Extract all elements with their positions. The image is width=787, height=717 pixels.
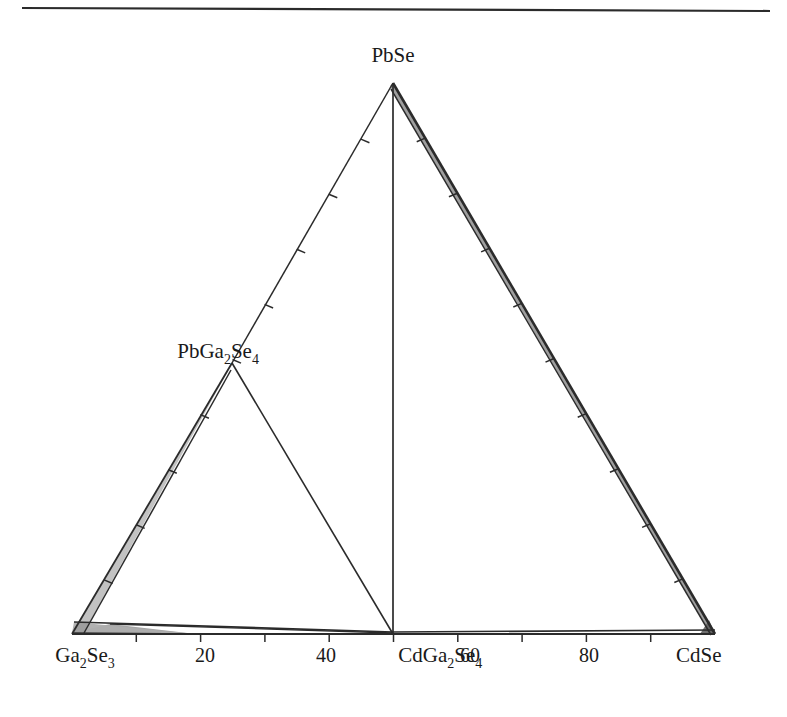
cdga2se4-base: CdGa xyxy=(398,643,448,667)
boundary-bottom-lens-upper xyxy=(74,622,715,632)
ga2se3-sub1: 2 xyxy=(80,656,87,671)
figure-container: PbSe Ga2Se3 CdSe PbGa2Se4 CdGa2Se4 20 40… xyxy=(0,0,787,717)
corner-label-ga2se3: Ga2Se3 xyxy=(8,643,152,673)
svg-text:CdGa2Se4: CdGa2Se4 xyxy=(351,643,519,673)
axis-tick-label-80: 80 xyxy=(579,644,599,666)
cdga2se4-sub1: 2 xyxy=(447,656,454,671)
svg-text:Ga2Se3: Ga2Se3 xyxy=(8,643,152,673)
boundary-bottom-lens-lower-left xyxy=(72,633,196,634)
ga2se3-sub2: 3 xyxy=(108,656,115,671)
axis-tick-label-60: 60 xyxy=(460,644,480,666)
node-label-cdga2se4: CdGa2Se4 xyxy=(351,643,519,673)
edge-pbse-cdse-inner xyxy=(391,89,711,635)
pbga2se4-base: PbGa xyxy=(177,339,224,363)
ternary-phase-diagram: PbSe Ga2Se3 CdSe PbGa2Se4 CdGa2Se4 20 40… xyxy=(0,0,787,717)
corner-label-pbse: PbSe xyxy=(371,43,414,67)
corner-label-cdse: CdSe xyxy=(676,643,722,667)
axis-tick-label-20: 20 xyxy=(195,644,215,666)
pbga2se4-mid: Se xyxy=(231,339,252,363)
edge-pbga2se4-pbse xyxy=(232,83,393,363)
svg-text:PbGa2Se4: PbGa2Se4 xyxy=(130,339,296,369)
ga2se3-mid: Se xyxy=(87,643,108,667)
edge-ga2se3-pbga2se4-outer xyxy=(72,363,232,634)
pbga2se4-sub1: 2 xyxy=(224,352,231,367)
pbga2se4-sub2: 4 xyxy=(252,352,259,367)
edge-ga2se3-pbga2se4-inner xyxy=(84,370,231,633)
axis-tick-label-40: 40 xyxy=(316,644,336,666)
join-line-pbga2se4-cdga2se4 xyxy=(232,363,393,634)
ticks-bottom-axis xyxy=(136,634,650,642)
ga2se3-base: Ga xyxy=(55,643,80,667)
top-horizontal-rule xyxy=(22,8,770,11)
node-label-pbga2se4: PbGa2Se4 xyxy=(130,339,296,369)
